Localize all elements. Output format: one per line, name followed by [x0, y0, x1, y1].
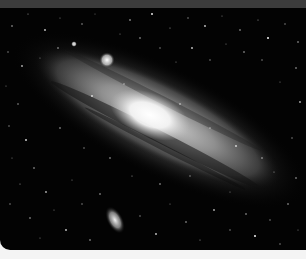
galaxy-photo — [0, 8, 306, 250]
galaxy-illustration — [0, 8, 306, 250]
image-frame — [0, 0, 306, 259]
bright-star — [99, 52, 115, 68]
satellite-galaxy — [101, 203, 129, 237]
top-strip — [0, 0, 306, 8]
bottom-strip — [0, 250, 306, 259]
